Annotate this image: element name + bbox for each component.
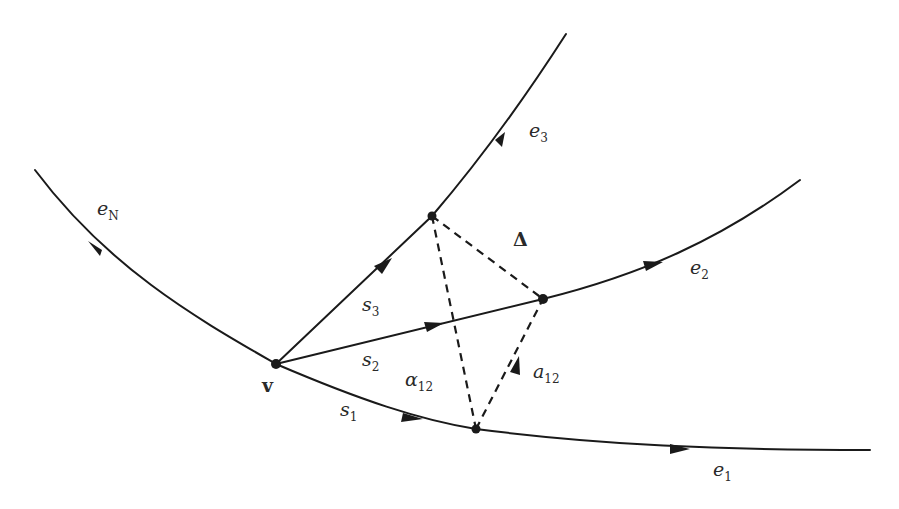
node-e2 bbox=[538, 294, 548, 304]
edge-e2-label: e2 bbox=[690, 256, 709, 282]
edge-e3-curve bbox=[276, 34, 566, 364]
angle-alpha12-label: α12 bbox=[405, 368, 433, 394]
edge-e2-curve bbox=[276, 180, 800, 364]
vector-a12-label: a12 bbox=[533, 360, 560, 386]
triangle-delta-label: Δ bbox=[513, 228, 528, 250]
dashed-side-e3-e1 bbox=[432, 216, 476, 429]
edge-e2-arrow-icon bbox=[643, 261, 663, 271]
edge-e1-label: e1 bbox=[713, 458, 732, 484]
segment-s2-arrow-icon bbox=[424, 322, 444, 332]
segment-s2-label: s2 bbox=[362, 348, 379, 374]
graph-diagram: v eN e3 e2 e1 s3 s2 s1 α12 a12 Δ bbox=[0, 0, 899, 509]
segment-s3-label: s3 bbox=[362, 293, 379, 319]
vector-a12-arrow-icon bbox=[510, 356, 520, 375]
vertex-v bbox=[271, 359, 281, 369]
edge-e3-label: e3 bbox=[529, 119, 548, 145]
node-e1 bbox=[472, 425, 481, 434]
node-e3 bbox=[428, 212, 437, 221]
edge-eN-curve bbox=[35, 170, 276, 364]
vertex-label: v bbox=[261, 374, 274, 396]
segment-s1-label: s1 bbox=[340, 398, 357, 424]
segment-s3-arrow-icon bbox=[374, 258, 392, 274]
edge-e1-curve bbox=[276, 364, 870, 450]
edge-eN-label: eN bbox=[97, 197, 119, 223]
